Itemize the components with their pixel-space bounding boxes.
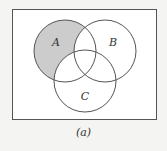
figure-caption: (a) <box>0 126 167 139</box>
set-b-label: B <box>108 36 117 49</box>
set-a-label: A <box>51 36 60 49</box>
set-c-label: C <box>81 90 90 103</box>
